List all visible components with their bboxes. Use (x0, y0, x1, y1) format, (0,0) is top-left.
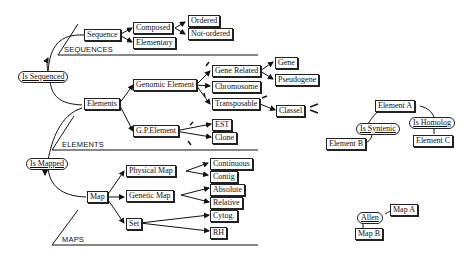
node-rh[interactable]: RH (210, 227, 227, 239)
node-gp-element[interactable]: G.P.Element (133, 125, 179, 137)
section-label-elements: ELEMENTS (62, 140, 104, 149)
relation-is-homolog[interactable]: Is Homolog (409, 117, 455, 129)
node-not-ordered[interactable]: Not-ordered (188, 28, 233, 40)
section-label-maps: MAPS (62, 235, 84, 244)
node-genomic-element[interactable]: Genomic Element (133, 79, 197, 91)
relation-is-sequenced[interactable]: Is Sequenced (18, 71, 68, 83)
node-chromosome[interactable]: Chromosome (212, 81, 261, 93)
node-elementary[interactable]: Elementary (133, 37, 176, 49)
node-classel[interactable]: Classel (276, 105, 305, 117)
node-pseudogene[interactable]: Pseudogene (275, 74, 319, 86)
node-est[interactable]: EST (212, 119, 232, 131)
relation-allen[interactable]: Allen (357, 212, 383, 224)
relation-is-syntenic[interactable]: Is Syntenic (356, 123, 400, 135)
node-map-b[interactable]: Map B (355, 228, 383, 240)
node-physical-map[interactable]: Physical Map (126, 165, 176, 177)
section-label-sequences: SEQUENCES (64, 45, 113, 54)
node-elements[interactable]: Elements (84, 98, 120, 110)
node-composed[interactable]: Composed (133, 22, 173, 34)
node-element-c[interactable]: Element C (413, 135, 453, 147)
node-element-a[interactable]: Element A (375, 100, 415, 112)
node-set[interactable]: Set (126, 218, 142, 230)
node-element-b[interactable]: Element B (326, 138, 366, 150)
node-relative[interactable]: Relative (210, 197, 243, 209)
relation-is-mapped[interactable]: Is Mapped (26, 158, 68, 170)
connector-lines (0, 0, 476, 261)
node-map[interactable]: Map (87, 191, 108, 203)
node-gene[interactable]: Gene (275, 57, 298, 69)
node-cytog[interactable]: Cytog. (210, 210, 238, 222)
node-continuous[interactable]: Continuous (210, 158, 253, 170)
node-gene-related[interactable]: Gene Related (212, 65, 261, 77)
node-ordered[interactable]: Ordered (188, 15, 220, 27)
node-absolute[interactable]: Absolute (210, 184, 245, 196)
node-genetic-map[interactable]: Genetic Map (126, 190, 174, 202)
node-transposable[interactable]: Transposable (212, 98, 260, 110)
node-clone[interactable]: Clone (212, 132, 237, 144)
node-map-a[interactable]: Map A (390, 204, 418, 216)
node-contig[interactable]: Contig (210, 171, 238, 183)
node-sequence[interactable]: Sequence (84, 29, 121, 41)
